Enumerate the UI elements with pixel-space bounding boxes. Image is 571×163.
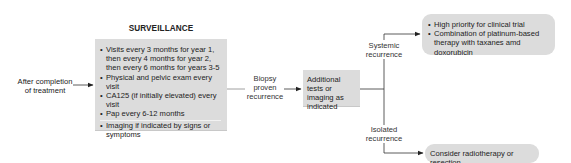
surveillance-list: Visits every 3 months for year 1, then e… xyxy=(100,45,221,139)
isolated-recurrence-label: Isolated recurrence xyxy=(362,125,406,143)
biopsy-proven-recurrence-label: Biopsy proven recurrence xyxy=(240,74,290,101)
systemic-treatment-box: High priority for clinical trial Combina… xyxy=(422,14,555,55)
isolated-treatment-box: Consider radiotherapy or resection xyxy=(425,144,539,163)
surveillance-title: SURVEILLANCE xyxy=(95,24,227,33)
systemic-label-line: Systemic xyxy=(362,41,406,50)
biopsy-label-line: Biopsy xyxy=(240,74,290,83)
additional-tests-box: Additional tests or imaging as indicated xyxy=(303,70,360,107)
systemic-treatment-item: High priority for clinical trial xyxy=(428,20,550,29)
isolated-label-line: Isolated xyxy=(362,125,406,134)
biopsy-label-line: proven xyxy=(240,83,290,92)
isolated-label-line: recurrence xyxy=(362,134,406,143)
systemic-recurrence-label: Systemic recurrence xyxy=(362,41,406,59)
systemic-treatment-item: Combination of platinum-based therapy wi… xyxy=(428,29,550,57)
surveillance-item: Visits every 3 months for year 1, then e… xyxy=(100,45,221,73)
systemic-label-line: recurrence xyxy=(362,50,406,59)
start-label: After completion of treatment xyxy=(14,77,76,95)
surveillance-item: Pap every 6-12 months xyxy=(100,109,221,118)
surveillance-box: Visits every 3 months for year 1, then e… xyxy=(95,39,227,131)
biopsy-label-line: recurrence xyxy=(240,92,290,101)
surveillance-item: Imaging if indicated by signs or symptom… xyxy=(100,120,221,139)
surveillance-item: Physical and pelvic exam every visit xyxy=(100,73,221,91)
systemic-treatment-list: High priority for clinical trial Combina… xyxy=(428,20,550,57)
surveillance-item: CA125 (if initially elevated) every visi… xyxy=(100,91,221,109)
